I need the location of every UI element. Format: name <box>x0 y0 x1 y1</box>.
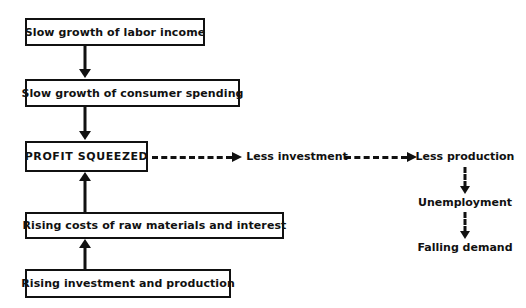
node-label: Slow growth of consumer spending <box>21 87 243 100</box>
node-label: PROFIT SQUEEZED <box>25 150 149 163</box>
node-label: Less production <box>416 150 515 163</box>
connector-line-spending-to-profit <box>84 107 87 133</box>
node-label: Rising investment and production <box>21 277 235 290</box>
arrowhead-up-investment-to-costs <box>79 239 91 248</box>
node-rising-costs: Rising costs of raw materials and intere… <box>25 212 284 239</box>
node-unemployment: Unemployment <box>418 196 512 209</box>
node-profit-squeezed: PROFIT SQUEEZED <box>25 141 148 172</box>
arrowhead-up-costs-to-profit <box>79 172 91 181</box>
connector-dashed-less-production-to-unemployment <box>464 167 467 187</box>
connector-dashed-profit-to-less-investment <box>152 156 232 159</box>
arrowhead-down-less-production-to-unemployment <box>460 186 470 194</box>
node-label: Less investment <box>246 150 347 163</box>
connector-line-costs-to-profit <box>84 180 87 212</box>
arrowhead-down-labor-to-spending <box>79 69 91 78</box>
connector-line-labor-to-spending <box>84 46 87 71</box>
node-slow-growth-consumer-spending: Slow growth of consumer spending <box>25 79 240 107</box>
node-falling-demand: Falling demand <box>417 241 512 254</box>
node-rising-investment-production: Rising investment and production <box>25 269 231 298</box>
node-label: Slow growth of labor income <box>25 26 206 39</box>
node-label: Rising costs of raw materials and intere… <box>23 219 287 232</box>
node-less-investment: Less investment <box>246 150 347 163</box>
flowchart-diagram: Slow growth of labor income Slow growth … <box>0 0 526 308</box>
arrowhead-right-profit-to-less-investment <box>232 152 242 162</box>
arrowhead-down-unemployment-to-falling-demand <box>460 231 470 239</box>
connector-line-investment-to-costs <box>84 247 87 271</box>
node-label: Unemployment <box>418 196 512 209</box>
connector-dashed-unemployment-to-falling-demand <box>464 212 467 232</box>
node-slow-growth-labor-income: Slow growth of labor income <box>25 18 205 46</box>
connector-dashed-less-investment-to-less-production <box>345 156 407 159</box>
node-less-production: Less production <box>416 150 515 163</box>
arrowhead-down-spending-to-profit <box>79 131 91 140</box>
node-label: Falling demand <box>417 241 512 254</box>
